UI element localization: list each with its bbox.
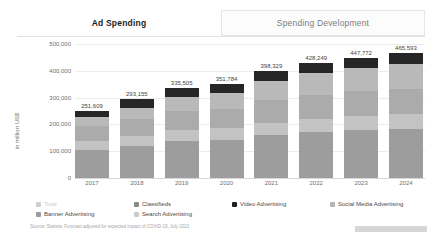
y-axis-tick-label: 300,000: [49, 95, 71, 101]
legend-item-label: Video Advertising: [240, 201, 286, 207]
chart-bars: 251,609293,155335,505351,784398,329428,2…: [75, 44, 423, 178]
bar-segment[interactable]: [120, 146, 154, 178]
bar-column[interactable]: 465,593: [389, 44, 423, 178]
bar-segment[interactable]: [344, 68, 378, 91]
legend-item[interactable]: Banner Advertising: [36, 209, 134, 219]
legend-item-label: Search Advertising: [142, 211, 192, 217]
bar-segment[interactable]: [165, 111, 199, 130]
y-axis-tick-label: 200,000: [49, 121, 71, 127]
bar-segment[interactable]: [344, 130, 378, 178]
bar-segment[interactable]: [120, 108, 154, 119]
y-axis-tick-label: 500,000: [49, 41, 71, 47]
legend-item[interactable]: Social Media Advertising: [330, 199, 428, 209]
bar-segment[interactable]: [299, 132, 333, 178]
bar-segment[interactable]: [210, 109, 244, 129]
bar-column[interactable]: 251,609: [75, 44, 109, 178]
stacked-bar[interactable]: [254, 71, 288, 178]
x-axis-tick-label: 2020: [210, 180, 244, 186]
stacked-bar[interactable]: [389, 53, 423, 178]
legend-swatch-icon: [36, 212, 41, 217]
bar-segment[interactable]: [299, 95, 333, 119]
bar-total-label: 335,505: [171, 80, 193, 86]
bar-segment[interactable]: [254, 100, 288, 122]
legend-swatch-icon: [330, 202, 335, 207]
footer-accent-bar: [355, 226, 427, 232]
stacked-bar[interactable]: [75, 111, 109, 178]
bar-total-label: 447,772: [350, 50, 372, 56]
tab-ad-spending-label: Ad Spending: [92, 18, 147, 28]
bar-segment[interactable]: [120, 136, 154, 146]
bar-total-label: 428,249: [305, 55, 327, 61]
chart-tabbar: Ad Spending Spending Development: [17, 10, 425, 37]
bar-segment[interactable]: [344, 91, 378, 116]
bar-segment[interactable]: [389, 129, 423, 178]
bar-segment[interactable]: [254, 81, 288, 101]
bar-segment[interactable]: [120, 119, 154, 136]
bar-segment[interactable]: [210, 128, 244, 140]
x-axis-tick-label: 2017: [75, 180, 109, 186]
bar-segment[interactable]: [210, 84, 244, 93]
bar-segment[interactable]: [389, 114, 423, 128]
bar-segment[interactable]: [389, 53, 423, 64]
bar-segment[interactable]: [344, 116, 378, 130]
legend-swatch-icon: [134, 202, 139, 207]
tab-ad-spending[interactable]: Ad Spending: [17, 10, 221, 36]
stacked-bar[interactable]: [210, 84, 244, 178]
bar-segment[interactable]: [165, 130, 199, 141]
bar-segment[interactable]: [75, 111, 109, 118]
legend-item-label: Total: [44, 201, 57, 207]
x-axis-tick-label: 2024: [389, 180, 423, 186]
legend-item[interactable]: Search Advertising: [134, 209, 232, 219]
legend-item[interactable]: Total: [36, 199, 134, 209]
bar-column[interactable]: 351,784: [210, 44, 244, 178]
gridline: [75, 178, 425, 179]
legend-item-label: Classifieds: [142, 201, 171, 207]
x-axis-tick-label: 2021: [254, 180, 288, 186]
x-axis-tick-label: 2019: [165, 180, 199, 186]
bar-segment[interactable]: [165, 141, 199, 178]
bar-column[interactable]: 293,155: [120, 44, 154, 178]
legend-item[interactable]: Classifieds: [134, 199, 232, 209]
bar-segment[interactable]: [75, 150, 109, 178]
bar-segment[interactable]: [75, 117, 109, 126]
bar-segment[interactable]: [75, 141, 109, 150]
x-axis-tick-label: 2018: [120, 180, 154, 186]
stacked-bar[interactable]: [165, 88, 199, 178]
chart-plot-area: in million US$ 0100,000200,000300,000400…: [17, 44, 425, 196]
bar-column[interactable]: 398,329: [254, 44, 288, 178]
tab-spending-development-label: Spending Development: [277, 18, 369, 28]
chart-source-note: Source: Statista; Forecast adjusted for …: [30, 224, 189, 229]
stacked-bar[interactable]: [344, 58, 378, 178]
bar-segment[interactable]: [254, 71, 288, 80]
bar-column[interactable]: 447,772: [344, 44, 378, 178]
bar-segment[interactable]: [389, 89, 423, 115]
tab-spending-development[interactable]: Spending Development: [221, 10, 425, 36]
bar-segment[interactable]: [210, 140, 244, 178]
bar-segment[interactable]: [389, 64, 423, 88]
bar-total-label: 351,784: [216, 76, 238, 82]
legend-swatch-icon: [134, 212, 139, 217]
bar-total-label: 251,609: [81, 103, 103, 109]
bar-segment[interactable]: [299, 63, 333, 73]
y-axis-title: in million US$: [14, 94, 20, 168]
stacked-bar[interactable]: [120, 99, 154, 178]
stacked-bar[interactable]: [299, 63, 333, 178]
bar-segment[interactable]: [299, 73, 333, 95]
bar-segment[interactable]: [165, 88, 199, 96]
bar-segment[interactable]: [254, 135, 288, 178]
chart-legend: TotalClassifiedsVideo AdvertisingSocial …: [36, 199, 428, 219]
legend-item[interactable]: Video Advertising: [232, 199, 330, 209]
bar-column[interactable]: 428,249: [299, 44, 333, 178]
bar-segment[interactable]: [299, 119, 333, 132]
bar-segment[interactable]: [344, 58, 378, 68]
bar-segment[interactable]: [254, 123, 288, 136]
bar-segment[interactable]: [165, 97, 199, 112]
bar-segment[interactable]: [75, 126, 109, 141]
y-axis-tick-label: 400,000: [49, 68, 71, 74]
y-axis-tick-labels: 0100,000200,000300,000400,000500,000: [31, 44, 71, 178]
bar-total-label: 398,329: [261, 63, 283, 69]
legend-item-label: Banner Advertising: [44, 211, 94, 217]
bar-column[interactable]: 335,505: [165, 44, 199, 178]
bar-segment[interactable]: [210, 93, 244, 109]
bar-segment[interactable]: [120, 99, 154, 107]
